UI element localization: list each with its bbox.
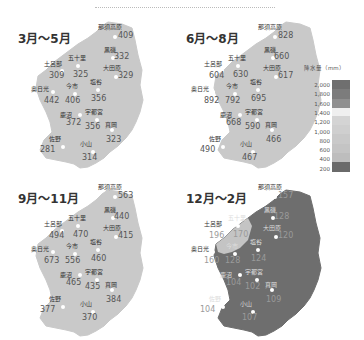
station-precipitation-value: 617: [278, 71, 293, 80]
station-precipitation-value: 460: [91, 254, 106, 263]
legend-color-band: [332, 162, 350, 171]
station-dot-icon: [78, 113, 82, 117]
station-dot-icon: [211, 90, 215, 94]
station-name: 小山: [240, 139, 252, 148]
station-dot-icon: [256, 248, 260, 252]
station-name: 今市: [226, 81, 238, 90]
legend-tick-label: 1,200: [304, 119, 330, 125]
legend-color-band: [332, 89, 350, 98]
season-map-panel: 6月～8月那須高原828黒磯660大田原617五十里630土呂部604奥日光89…: [178, 0, 358, 172]
station-precipitation-value: 668: [226, 118, 241, 127]
station-precipitation-value: 470: [73, 230, 88, 239]
station-precipitation-value: 563: [118, 191, 133, 200]
legend-color-band: [332, 108, 350, 116]
station-name: 塩谷: [250, 77, 262, 86]
station-name: 土呂部: [204, 59, 222, 68]
station-precipitation-value: 792: [225, 96, 240, 105]
station-precipitation-value: 332: [114, 52, 129, 61]
station-dot-icon: [51, 90, 55, 94]
station-name: 小山: [80, 299, 92, 308]
station-precipitation-value: 281: [40, 145, 55, 154]
legend-tick-label: 1,000: [304, 129, 330, 135]
station-precipitation-value: 490: [200, 145, 215, 154]
station-precipitation-value: 128: [274, 212, 289, 221]
station-precipitation-value: 435: [85, 282, 100, 291]
station-dot-icon: [76, 224, 80, 228]
season-title: 9月～11月: [18, 189, 79, 206]
station-dot-icon: [221, 145, 225, 149]
legend-tick-label: 200: [304, 166, 330, 172]
station-name: 奥日光: [191, 244, 209, 253]
station-name: 那須高原: [98, 182, 122, 191]
legend-tick-label: 600: [304, 147, 330, 153]
station-name: 土呂部: [44, 219, 62, 228]
station-name: 奥日光: [31, 84, 49, 93]
legend-color-band: [332, 125, 350, 134]
station-precipitation-value: 494: [49, 231, 64, 240]
legend-tick-label: 800: [304, 138, 330, 144]
station-dot-icon: [61, 145, 65, 149]
station-precipitation-value: 673: [44, 256, 59, 265]
legend-color-band: [332, 144, 350, 153]
station-precipitation-value: 120: [278, 231, 293, 240]
station-name: 宇都宮: [85, 267, 103, 276]
station-name: 塩谷: [90, 237, 102, 246]
legend-color-band: [332, 99, 350, 108]
season-title: 6月～8月: [186, 29, 239, 46]
station-name: 那須高原: [98, 22, 122, 31]
station-precipitation-value: 660: [274, 52, 289, 61]
legend-tick-label: 1,400: [304, 110, 330, 116]
station-precipitation-value: 314: [82, 153, 97, 162]
station-name: 土呂部: [204, 219, 222, 228]
station-precipitation-value: 409: [118, 31, 133, 40]
station-name: 五十里: [228, 213, 246, 222]
station-dot-icon: [236, 64, 240, 68]
station-precipitation-value: 309: [49, 71, 64, 80]
station-precipitation-value: 104: [226, 278, 241, 287]
station-name: 佐野: [209, 294, 221, 303]
station-precipitation-value: 465: [66, 278, 81, 287]
station-precipitation-value: 695: [251, 94, 266, 103]
station-name: 五十里: [228, 53, 246, 62]
station-name: 今市: [66, 81, 78, 90]
station-precipitation-value: 630: [233, 70, 248, 79]
season-map-panel: 12月～2月那須高原157黒磯128大田原120五十里170土呂部196奥日光1…: [178, 168, 358, 340]
station-name: 宇都宮: [245, 267, 263, 276]
station-dot-icon: [273, 35, 277, 39]
station-name: 五十里: [68, 53, 86, 62]
station-name: 佐野: [49, 294, 61, 303]
station-name: 奥日光: [191, 84, 209, 93]
station-precipitation-value: 556: [65, 256, 80, 265]
station-precipitation-value: 325: [73, 70, 88, 79]
station-dot-icon: [76, 64, 80, 68]
station-precipitation-value: 323: [106, 135, 121, 144]
legend-tick-label: 400: [304, 156, 330, 162]
station-precipitation-value: 196: [209, 231, 224, 240]
station-dot-icon: [113, 195, 117, 199]
legend-color-scale: [332, 80, 350, 172]
station-precipitation-value: 442: [44, 96, 59, 105]
legend-tick-label: 2,000: [304, 82, 330, 88]
station-dot-icon: [61, 305, 65, 309]
station-precipitation-value: 384: [106, 295, 121, 304]
station-dot-icon: [238, 273, 242, 277]
station-dot-icon: [51, 250, 55, 254]
station-precipitation-value: 440: [114, 212, 129, 221]
station-name: 土呂部: [44, 59, 62, 68]
station-name: 今市: [66, 241, 78, 250]
station-precipitation-value: 828: [278, 31, 293, 40]
station-name: 宇都宮: [245, 107, 263, 116]
station-dot-icon: [211, 250, 215, 254]
station-precipitation-value: 170: [233, 230, 248, 239]
station-name: 五十里: [68, 213, 86, 222]
station-dot-icon: [256, 88, 260, 92]
station-name: 那須高原: [258, 22, 282, 31]
station-precipitation-value: 107: [242, 313, 257, 322]
station-name: 真岡: [105, 120, 117, 129]
legend-tick-label: 1,800: [304, 91, 330, 97]
season-map-panel: 3月～5月那須高原409黒磯332大田原329五十里325土呂部309奥日光44…: [0, 0, 180, 172]
station-name: 真岡: [105, 280, 117, 289]
station-name: 今市: [226, 241, 238, 250]
station-name: 宇都宮: [85, 107, 103, 116]
station-dot-icon: [78, 273, 82, 277]
